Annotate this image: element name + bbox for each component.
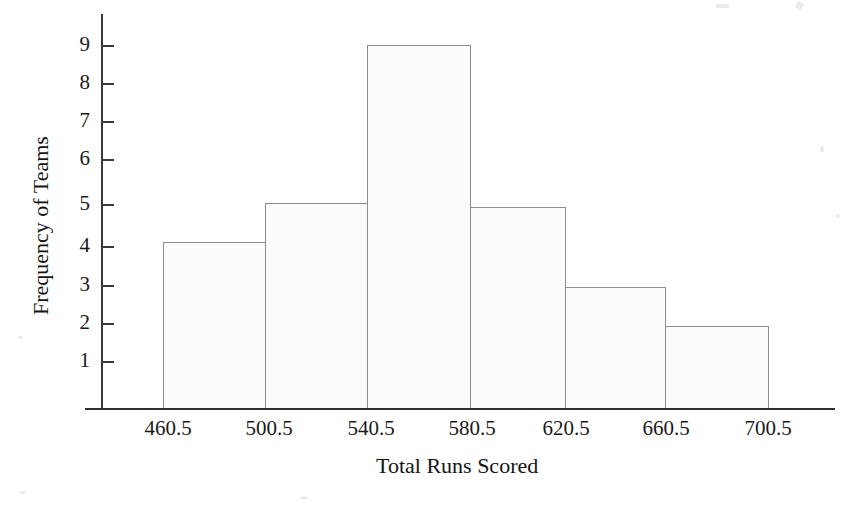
y-axis-tick-label: 9 bbox=[58, 34, 90, 55]
x-axis-tick-label: 620.5 bbox=[521, 418, 611, 439]
y-axis-tick bbox=[101, 246, 114, 248]
x-axis-tick-label: 700.5 bbox=[723, 418, 813, 439]
y-axis-tick bbox=[101, 361, 114, 363]
histogram-bar bbox=[163, 242, 266, 409]
scan-artifact bbox=[716, 4, 729, 8]
y-axis-tick-label: 5 bbox=[58, 193, 90, 214]
y-axis-tick-label: 3 bbox=[58, 274, 90, 295]
scan-artifact bbox=[820, 146, 824, 152]
y-axis-tick bbox=[101, 204, 114, 206]
y-axis-tick bbox=[101, 285, 114, 287]
histogram-bar bbox=[470, 207, 566, 409]
histogram-bar bbox=[367, 45, 471, 409]
scan-artifact bbox=[18, 336, 23, 339]
histogram-bar bbox=[565, 287, 666, 409]
y-axis-tick-label: 8 bbox=[58, 72, 90, 93]
histogram-figure: 9 8 7 6 5 4 3 2 1 460.5 500.5 540.5 580.… bbox=[0, 0, 858, 507]
x-axis-tick-label: 580.5 bbox=[427, 418, 517, 439]
y-axis-tick-label: 7 bbox=[58, 110, 90, 131]
y-axis-tick-label: 2 bbox=[58, 312, 90, 333]
y-axis-tick-label: 4 bbox=[58, 235, 90, 256]
y-axis-tick bbox=[101, 83, 114, 85]
y-axis-tick-label: 1 bbox=[58, 350, 90, 371]
histogram-bar bbox=[265, 203, 368, 409]
scan-artifact bbox=[836, 214, 840, 218]
x-axis-title: Total Runs Scored bbox=[376, 455, 538, 477]
y-axis-line bbox=[101, 14, 103, 410]
y-axis-tick bbox=[101, 45, 114, 47]
x-axis-tick-label: 660.5 bbox=[621, 418, 711, 439]
y-axis-tick-label: 6 bbox=[58, 148, 90, 169]
x-axis-tick-label: 460.5 bbox=[123, 418, 213, 439]
y-axis-tick bbox=[101, 159, 114, 161]
x-axis-tick-label: 500.5 bbox=[224, 418, 314, 439]
x-axis-tick-label: 540.5 bbox=[326, 418, 416, 439]
scan-artifact bbox=[300, 496, 308, 499]
x-axis-line bbox=[85, 408, 835, 410]
histogram-bar bbox=[665, 326, 769, 409]
y-axis-tick bbox=[101, 323, 114, 325]
scan-artifact bbox=[795, 1, 804, 10]
y-axis-tick bbox=[101, 121, 114, 123]
y-axis-title: Frequency of Teams bbox=[30, 136, 52, 315]
scan-artifact bbox=[19, 491, 26, 494]
